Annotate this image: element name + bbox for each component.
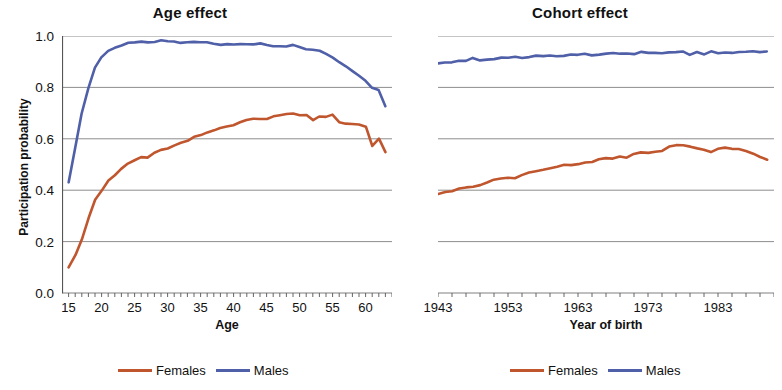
y-tick-label: 0.8 <box>14 80 54 95</box>
legend-entry-males[interactable]: Males <box>216 364 289 377</box>
legend-swatch-males <box>608 369 642 372</box>
x-tick-label: 1963 <box>564 300 593 315</box>
series-line-males <box>438 51 767 63</box>
x-tick-label: 30 <box>160 300 174 315</box>
x-tick-label: 55 <box>325 300 339 315</box>
y-axis-tick-labels: 0.00.20.40.60.81.0 <box>14 0 54 390</box>
y-tick-label: 1.0 <box>14 29 54 44</box>
legend-label: Males <box>254 364 289 377</box>
x-tick-label: 15 <box>61 300 75 315</box>
series-line-males <box>69 40 386 182</box>
series-line-females <box>438 145 767 194</box>
y-tick-label: 0.0 <box>14 286 54 301</box>
x-tick-label: 25 <box>127 300 141 315</box>
y-tick-label: 0.6 <box>14 131 54 146</box>
x-tick-label: 45 <box>259 300 273 315</box>
legend-entry-females[interactable]: Females <box>118 364 206 377</box>
panel-age-effect: Age effect Participation probability 0.0… <box>0 0 400 390</box>
x-tick-label: 35 <box>193 300 207 315</box>
chart-svg <box>62 36 392 299</box>
x-tick-label: 50 <box>292 300 306 315</box>
x-axis-title: Age <box>62 318 392 332</box>
y-tick-label: 0.4 <box>14 183 54 198</box>
plot-area-cohort-effect <box>438 36 774 293</box>
x-tick-label: 60 <box>358 300 372 315</box>
legend-entry-males[interactable]: Males <box>608 364 681 377</box>
y-tick-label: 0.2 <box>14 234 54 249</box>
figure-container: Age effect Participation probability 0.0… <box>0 0 782 390</box>
x-tick-label: 20 <box>94 300 108 315</box>
x-tick-label: 40 <box>226 300 240 315</box>
panel-title-age-effect: Age effect <box>10 4 370 21</box>
x-tick-label: 1943 <box>424 300 453 315</box>
chart-svg <box>438 36 774 299</box>
panel-cohort-effect: Cohort effect 19431953196319731983 Year … <box>400 0 782 390</box>
legend-label: Females <box>156 364 206 377</box>
legend-label: Males <box>646 364 681 377</box>
legend-entry-females[interactable]: Females <box>510 364 598 377</box>
legend-swatch-females <box>510 369 544 372</box>
legend-label: Females <box>548 364 598 377</box>
legend-age-effect: FemalesMales <box>118 364 289 377</box>
x-tick-label: 1953 <box>494 300 523 315</box>
x-tick-label: 1983 <box>704 300 733 315</box>
legend-cohort-effect: FemalesMales <box>510 364 681 377</box>
plot-area-age-effect <box>62 36 392 293</box>
x-tick-label: 1973 <box>634 300 663 315</box>
legend-swatch-females <box>118 369 152 372</box>
x-axis-title: Year of birth <box>438 318 774 332</box>
legend-swatch-males <box>216 369 250 372</box>
panel-title-cohort-effect: Cohort effect <box>400 4 760 21</box>
